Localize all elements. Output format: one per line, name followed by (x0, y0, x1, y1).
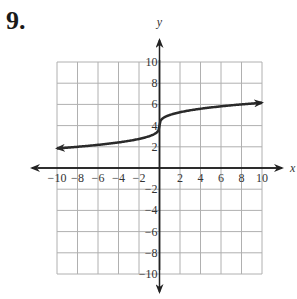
y-tick-label: 2 (152, 140, 158, 154)
x-tick-label: −6 (92, 171, 105, 185)
x-tick-label: −4 (112, 171, 125, 185)
y-tick-label: −4 (145, 203, 158, 217)
y-tick-label: 4 (152, 119, 158, 133)
x-tick-label: 10 (256, 171, 268, 185)
y-tick-label: −2 (145, 182, 158, 196)
x-tick-label: −10 (48, 171, 67, 185)
x-tick-label: 2 (177, 171, 183, 185)
x-tick-label: −8 (71, 171, 84, 185)
y-tick-label: 8 (152, 76, 158, 90)
y-tick-label: −8 (145, 246, 158, 260)
x-tick-label: −2 (133, 171, 146, 185)
y-tick-label: −10 (139, 267, 158, 281)
y-tick-label: −6 (145, 225, 158, 239)
y-axis-label: y (156, 15, 163, 29)
y-tick-label: 10 (146, 55, 158, 69)
x-tick-label: 8 (239, 171, 245, 185)
graph: −10−8−6−4−2246810108642−2−4−6−8−10xy (0, 0, 297, 299)
x-tick-label: 4 (198, 171, 204, 185)
y-tick-label: 6 (152, 97, 158, 111)
x-tick-label: 6 (218, 171, 224, 185)
x-axis-label: x (289, 161, 296, 175)
